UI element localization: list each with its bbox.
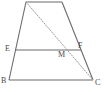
segment-left-side-AB <box>9 2 26 80</box>
vertex-label-b: B <box>1 77 6 85</box>
vertex-label-c: C <box>95 79 100 87</box>
geometry-canvas <box>0 0 104 95</box>
vertex-label-m: M <box>58 51 65 59</box>
geometry-figure: E F M B C <box>0 0 104 95</box>
segment-diagonal-AC-dotted <box>26 2 93 80</box>
vertex-label-f: F <box>78 42 82 50</box>
vertex-label-e: E <box>5 45 10 53</box>
